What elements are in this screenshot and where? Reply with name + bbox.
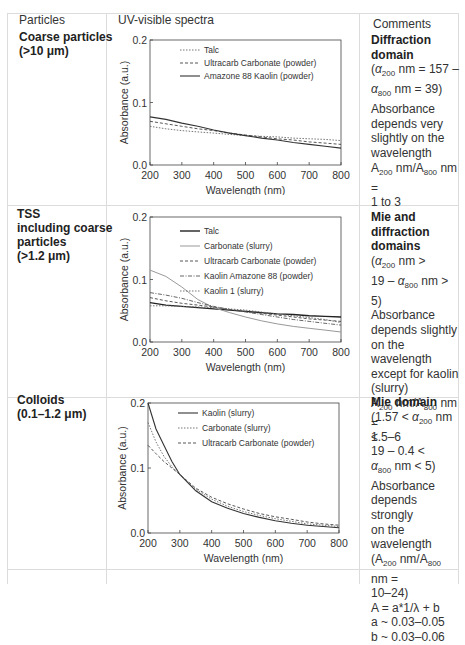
x-tick-label: 400 <box>205 169 223 181</box>
comment-line: Absorbance <box>371 308 459 323</box>
y-tick-label: 0.2 <box>130 397 145 409</box>
y-axis-label: Absorbance (a.u.) <box>118 61 130 144</box>
particle-label: TSS <box>17 207 112 221</box>
y-tick-label: 0.0 <box>132 159 147 171</box>
comment-line: (α200 nm > <box>371 254 459 274</box>
x-tick-label: 800 <box>332 169 350 181</box>
comment-line: Absorbance <box>371 479 459 494</box>
col-divider <box>359 13 360 584</box>
particle-label: particles <box>17 235 112 249</box>
comment-line: a ~ 0.03–0.05 <box>371 615 459 630</box>
x-tick-label: 300 <box>173 169 191 181</box>
comment-line: 10–24) <box>371 586 459 601</box>
series-line <box>150 121 341 144</box>
x-tick-label: 500 <box>235 537 253 549</box>
comment-title: Diffraction domain <box>371 33 441 62</box>
legend-label: Ultracarb Carbonate (powder) <box>204 58 317 68</box>
x-tick-label: 800 <box>332 346 350 358</box>
particle-label: Coarse particles <box>19 30 112 44</box>
x-tick-label: 500 <box>237 169 255 181</box>
chart-coarse-particles: 2003004005006007008000.00.10.2Wavelength… <box>110 30 350 195</box>
y-tick-label: 0.0 <box>132 336 147 348</box>
comment-line: depends strongly <box>371 493 459 522</box>
x-tick-label: 400 <box>205 346 223 358</box>
comment-line: A = a*1/λ + b <box>371 601 459 616</box>
comment-line: (A200 nm/A800 nm = <box>371 552 459 587</box>
comment-line: slightly on the <box>371 131 459 146</box>
particle-class-tss: TSS including coarse particles (>1.2 μm) <box>17 207 112 263</box>
comment-colloids: Mie domain (1.57 < α200 nm < 19 – 0.4 < … <box>371 395 459 645</box>
legend-label: Kaolin (slurry) <box>202 408 255 418</box>
comment-line: 19 – α800 nm > 5) <box>371 274 459 309</box>
particle-class-colloids: Colloids (0.1–1.2 μm) <box>17 393 86 421</box>
chart-colloids: 2003004005006007008000.00.10.2Wavelength… <box>110 395 350 570</box>
series-line <box>150 303 341 317</box>
x-axis-label: Wavelength (nm) <box>206 184 286 195</box>
comment-line: A200 nm/A800 nm = <box>371 161 459 196</box>
chart-tss: 2003004005006007008000.00.10.2Wavelength… <box>110 207 350 382</box>
y-tick-label: 0.1 <box>132 97 147 109</box>
x-tick-label: 800 <box>330 537 348 549</box>
comment-line: Absorbance <box>371 102 459 117</box>
comment-line: on the wavelength <box>371 523 459 552</box>
legend-label: Ultracarb Carbonate (powder) <box>204 256 317 266</box>
comment-line: α800 nm < 5) <box>371 459 459 479</box>
x-tick-label: 700 <box>300 169 318 181</box>
comment-line: 1 to 3 <box>371 195 459 210</box>
legend-label: Talc <box>204 226 220 236</box>
comment-line: b ~ 0.03–0.06 <box>371 630 459 645</box>
particle-size: (>1.2 μm) <box>17 249 112 263</box>
col-divider <box>106 13 107 584</box>
comment-title: Mie and diffraction domains <box>371 210 431 254</box>
comment-line: depends slightly <box>371 323 459 338</box>
legend-label: Carbonate (slurry) <box>202 423 271 433</box>
legend-label: Talc <box>204 45 220 55</box>
comment-line: on the wavelength <box>371 338 459 367</box>
legend-label: Kaolin Amazone 88 (powder) <box>204 271 313 281</box>
legend-label: Amazone 88 Kaolin (powder) <box>204 71 314 81</box>
comment-title: Mie domain <box>371 395 459 410</box>
comment-line: 19 – 0.4 < <box>371 444 459 459</box>
x-tick-label: 700 <box>300 346 318 358</box>
comment-line: (1.57 < α200 nm < <box>371 410 459 445</box>
comment-coarse: Diffraction domain (α200 nm = 157 – α800… <box>371 33 459 210</box>
particle-size: (0.1–1.2 μm) <box>17 407 86 421</box>
particle-class-coarse: Coarse particles (>10 μm) <box>19 30 112 58</box>
x-tick-label: 600 <box>269 346 287 358</box>
header-spectra: UV-visible spectra <box>118 13 214 27</box>
legend-label: Ultracarb Carbonate (powder) <box>202 438 315 448</box>
x-axis-label: Wavelength (nm) <box>206 361 286 373</box>
table-border-top <box>7 13 459 14</box>
x-tick-label: 300 <box>171 537 189 549</box>
legend-label: Kaolin 1 (slurry) <box>204 286 264 296</box>
y-tick-label: 0.0 <box>130 527 145 539</box>
x-axis-label: Wavelength (nm) <box>204 552 284 564</box>
x-tick-label: 300 <box>173 346 191 358</box>
legend-label: Carbonate (slurry) <box>204 241 273 251</box>
y-tick-label: 0.1 <box>130 462 145 474</box>
header-comments: Comments <box>373 17 431 31</box>
y-tick-label: 0.2 <box>132 211 147 223</box>
y-axis-label: Absorbance (a.u.) <box>116 426 128 509</box>
y-tick-label: 0.2 <box>132 34 147 46</box>
x-tick-label: 700 <box>298 537 316 549</box>
series-line <box>150 117 341 148</box>
col-divider <box>7 13 8 584</box>
particle-label: including coarse <box>17 221 112 235</box>
comment-line: (α200 nm = 157 – <box>371 62 459 82</box>
particle-size: (>10 μm) <box>19 44 112 58</box>
x-tick-label: 600 <box>269 169 287 181</box>
comment-line: except for kaolin <box>371 367 459 382</box>
comment-line: α800 nm = 39) <box>371 82 459 102</box>
comment-line: depends very <box>371 117 459 132</box>
x-tick-label: 400 <box>203 537 221 549</box>
comment-line: (slurry) <box>371 381 459 396</box>
particle-label: Colloids <box>17 393 86 407</box>
header-particles: Particles <box>19 13 65 27</box>
x-tick-label: 500 <box>237 346 255 358</box>
y-tick-label: 0.1 <box>132 274 147 286</box>
y-axis-label: Absorbance (a.u.) <box>118 238 130 321</box>
series-line <box>150 306 341 323</box>
series-line <box>150 293 341 326</box>
x-tick-label: 600 <box>267 537 285 549</box>
